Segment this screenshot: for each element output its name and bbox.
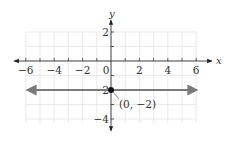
coordinate-graph: xy−6−4−202462−2−4 (0, −2) xyxy=(0,0,230,143)
x-tick-label: 2 xyxy=(136,64,143,76)
y-tick-label: −4 xyxy=(94,113,110,125)
x-axis-label: x xyxy=(216,55,222,66)
point-label: (0, −2) xyxy=(119,98,156,110)
y-axis-label: y xyxy=(108,8,115,19)
x-tick-label: −6 xyxy=(18,64,34,76)
x-tick-label: −2 xyxy=(75,64,90,76)
y-tick-label: 2 xyxy=(102,26,109,38)
annotations: (0, −2) xyxy=(113,92,156,110)
x-tick-label: −4 xyxy=(46,64,62,76)
x-tick-label: 0 xyxy=(103,64,110,76)
x-tick-label: 6 xyxy=(193,64,200,76)
x-tick-label: 4 xyxy=(164,64,171,76)
